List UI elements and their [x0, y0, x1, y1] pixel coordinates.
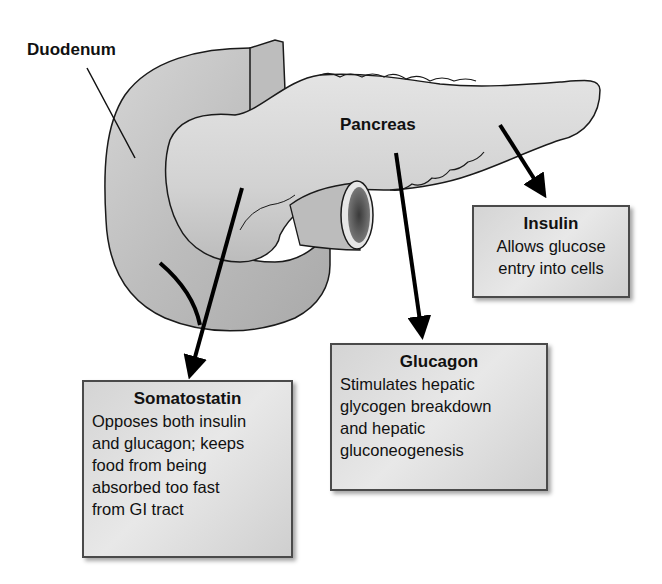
glucagon-box: Glucagon Stimulates hepatic glycogen bre…	[330, 343, 548, 491]
somatostatin-desc-line: absorbed too fast	[92, 476, 283, 498]
pancreas-label: Pancreas	[340, 115, 416, 135]
somatostatin-desc-line: from GI tract	[92, 498, 283, 520]
somatostatin-box: Somatostatin Opposes both insulin and gl…	[82, 380, 293, 558]
insulin-title: Insulin	[482, 213, 620, 235]
glucagon-desc-line: glycogen breakdown	[340, 395, 538, 417]
somatostatin-desc-line: food from being	[92, 454, 283, 476]
glucagon-desc-line: Stimulates hepatic	[340, 373, 538, 395]
insulin-desc-line: entry into cells	[482, 257, 620, 279]
insulin-box: Insulin Allows glucose entry into cells	[472, 205, 630, 298]
insulin-desc-line: Allows glucose	[482, 235, 620, 257]
somatostatin-desc-line: and glucagon; keeps	[92, 432, 283, 454]
glucagon-desc-line: and hepatic	[340, 417, 538, 439]
glucagon-desc-line: gluconeogenesis	[340, 439, 538, 461]
duodenum-label: Duodenum	[27, 40, 116, 60]
somatostatin-desc-line: Opposes both insulin	[92, 410, 283, 432]
somatostatin-title: Somatostatin	[92, 388, 283, 410]
glucagon-title: Glucagon	[340, 351, 538, 373]
